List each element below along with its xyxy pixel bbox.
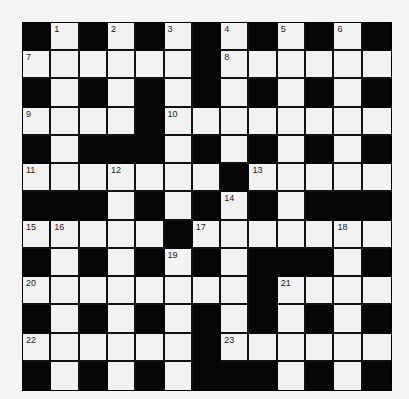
- answer-cell[interactable]: 11: [23, 164, 51, 192]
- answer-cell[interactable]: 19: [165, 249, 193, 277]
- answer-cell[interactable]: [363, 164, 391, 192]
- answer-cell[interactable]: [165, 136, 193, 164]
- answer-cell[interactable]: [165, 362, 193, 390]
- answer-cell[interactable]: [165, 277, 193, 305]
- answer-cell[interactable]: [278, 334, 306, 362]
- answer-cell[interactable]: [334, 79, 362, 107]
- answer-cell[interactable]: 15: [23, 221, 51, 249]
- answer-cell[interactable]: [51, 277, 79, 305]
- answer-cell[interactable]: [278, 108, 306, 136]
- answer-cell[interactable]: [80, 164, 108, 192]
- answer-cell[interactable]: [51, 164, 79, 192]
- answer-cell[interactable]: [306, 334, 334, 362]
- answer-cell[interactable]: 12: [108, 164, 136, 192]
- answer-cell[interactable]: [108, 79, 136, 107]
- answer-cell[interactable]: [249, 334, 277, 362]
- answer-cell[interactable]: [278, 136, 306, 164]
- answer-cell[interactable]: [51, 334, 79, 362]
- answer-cell[interactable]: [136, 51, 164, 79]
- answer-cell[interactable]: [363, 334, 391, 362]
- answer-cell[interactable]: [278, 362, 306, 390]
- answer-cell[interactable]: [363, 277, 391, 305]
- answer-cell[interactable]: [51, 305, 79, 333]
- answer-cell[interactable]: [108, 334, 136, 362]
- answer-cell[interactable]: [165, 164, 193, 192]
- answer-cell[interactable]: [193, 164, 221, 192]
- answer-cell[interactable]: [136, 277, 164, 305]
- answer-cell[interactable]: [108, 221, 136, 249]
- answer-cell[interactable]: [221, 277, 249, 305]
- answer-cell[interactable]: [108, 51, 136, 79]
- answer-cell[interactable]: [221, 221, 249, 249]
- answer-cell[interactable]: [80, 221, 108, 249]
- answer-cell[interactable]: [51, 79, 79, 107]
- answer-cell[interactable]: 1: [51, 23, 79, 51]
- answer-cell[interactable]: 9: [23, 108, 51, 136]
- answer-cell[interactable]: 6: [334, 23, 362, 51]
- answer-cell[interactable]: [334, 164, 362, 192]
- answer-cell[interactable]: [165, 51, 193, 79]
- answer-cell[interactable]: 13: [249, 164, 277, 192]
- answer-cell[interactable]: [334, 108, 362, 136]
- answer-cell[interactable]: [334, 362, 362, 390]
- answer-cell[interactable]: [334, 277, 362, 305]
- answer-cell[interactable]: [136, 164, 164, 192]
- answer-cell[interactable]: [306, 51, 334, 79]
- answer-cell[interactable]: 21: [278, 277, 306, 305]
- answer-cell[interactable]: [165, 305, 193, 333]
- answer-cell[interactable]: 14: [221, 192, 249, 220]
- answer-cell[interactable]: [221, 136, 249, 164]
- answer-cell[interactable]: 4: [221, 23, 249, 51]
- answer-cell[interactable]: 18: [334, 221, 362, 249]
- answer-cell[interactable]: [165, 192, 193, 220]
- answer-cell[interactable]: [278, 164, 306, 192]
- answer-cell[interactable]: [108, 108, 136, 136]
- answer-cell[interactable]: 16: [51, 221, 79, 249]
- answer-cell[interactable]: [306, 108, 334, 136]
- answer-cell[interactable]: [51, 362, 79, 390]
- answer-cell[interactable]: [136, 334, 164, 362]
- answer-cell[interactable]: 10: [165, 108, 193, 136]
- answer-cell[interactable]: [249, 221, 277, 249]
- answer-cell[interactable]: [306, 164, 334, 192]
- answer-cell[interactable]: [80, 277, 108, 305]
- answer-cell[interactable]: [108, 192, 136, 220]
- answer-cell[interactable]: [80, 51, 108, 79]
- answer-cell[interactable]: [221, 305, 249, 333]
- answer-cell[interactable]: [334, 249, 362, 277]
- answer-cell[interactable]: 5: [278, 23, 306, 51]
- answer-cell[interactable]: 8: [221, 51, 249, 79]
- answer-cell[interactable]: [51, 51, 79, 79]
- answer-cell[interactable]: 23: [221, 334, 249, 362]
- answer-cell[interactable]: [108, 249, 136, 277]
- answer-cell[interactable]: 20: [23, 277, 51, 305]
- answer-cell[interactable]: [80, 108, 108, 136]
- answer-cell[interactable]: [221, 79, 249, 107]
- answer-cell[interactable]: [80, 334, 108, 362]
- answer-cell[interactable]: [278, 51, 306, 79]
- answer-cell[interactable]: [334, 334, 362, 362]
- answer-cell[interactable]: [136, 221, 164, 249]
- answer-cell[interactable]: 3: [165, 23, 193, 51]
- answer-cell[interactable]: [334, 136, 362, 164]
- answer-cell[interactable]: [306, 221, 334, 249]
- answer-cell[interactable]: [278, 79, 306, 107]
- answer-cell[interactable]: [221, 249, 249, 277]
- answer-cell[interactable]: [108, 362, 136, 390]
- answer-cell[interactable]: [334, 51, 362, 79]
- answer-cell[interactable]: [193, 277, 221, 305]
- answer-cell[interactable]: [363, 108, 391, 136]
- answer-cell[interactable]: [51, 108, 79, 136]
- answer-cell[interactable]: [51, 249, 79, 277]
- answer-cell[interactable]: 22: [23, 334, 51, 362]
- answer-cell[interactable]: [249, 108, 277, 136]
- answer-cell[interactable]: [306, 277, 334, 305]
- answer-cell[interactable]: [221, 108, 249, 136]
- answer-cell[interactable]: [278, 221, 306, 249]
- answer-cell[interactable]: [278, 305, 306, 333]
- answer-cell[interactable]: 2: [108, 23, 136, 51]
- answer-cell[interactable]: [249, 51, 277, 79]
- answer-cell[interactable]: [108, 277, 136, 305]
- answer-cell[interactable]: [193, 108, 221, 136]
- answer-cell[interactable]: [334, 305, 362, 333]
